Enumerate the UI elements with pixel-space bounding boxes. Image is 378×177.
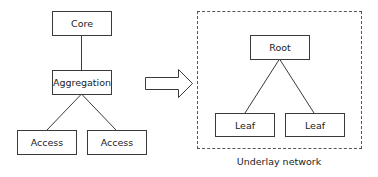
core-label: Core xyxy=(71,18,93,29)
access-label: Access xyxy=(31,137,64,148)
root-label: Root xyxy=(269,42,291,53)
leaf-node-right: Leaf xyxy=(285,113,345,137)
diagram-canvas: Core Aggregation Access Access Root Leaf… xyxy=(0,0,378,177)
link-aggregation-access-left xyxy=(47,94,82,130)
access-node-right: Access xyxy=(87,130,147,155)
link-aggregation-access-right xyxy=(82,94,117,130)
right-block-arrow-icon xyxy=(146,70,193,98)
leaf-label: Leaf xyxy=(235,120,255,131)
root-node: Root xyxy=(250,35,310,60)
leaf-node-left: Leaf xyxy=(215,113,275,137)
access-node-left: Access xyxy=(17,130,77,155)
aggregation-node: Aggregation xyxy=(52,70,112,95)
access-label: Access xyxy=(101,137,134,148)
core-node: Core xyxy=(52,11,112,36)
underlay-network-caption: Underlay network xyxy=(229,156,329,167)
leaf-label: Leaf xyxy=(305,120,325,131)
aggregation-label: Aggregation xyxy=(53,77,111,88)
